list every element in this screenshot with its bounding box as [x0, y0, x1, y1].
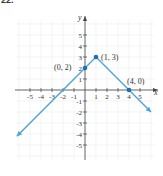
x-tick-label: 4 [127, 93, 131, 101]
x-tick-label: 1 [94, 93, 98, 101]
y-tick-label: -1 [76, 98, 82, 106]
y-tick-label: 5 [79, 32, 83, 40]
x-tick-label: 2 [105, 93, 109, 101]
data-point-marker [94, 55, 99, 60]
graph-figure: 22. -5-4-3-2-112345-5-4-3-2-112345 x y (… [0, 0, 163, 176]
y-axis-label: y [77, 13, 82, 22]
y-tick-label: -5 [76, 142, 82, 150]
coordinate-plane: -5-4-3-2-112345-5-4-3-2-112345 x y (0, 2… [0, 0, 163, 176]
axes [15, 16, 158, 160]
y-tick-label: -3 [76, 120, 82, 128]
y-axis-arrow-icon [83, 16, 87, 21]
data-point-marker [127, 88, 132, 93]
x-tick-label: -5 [27, 93, 33, 101]
y-tick-label: -2 [76, 109, 82, 117]
problem-number: 22. [1, 0, 14, 5]
point-label-0-2: (0, 2) [54, 63, 72, 72]
point-label-1-3: (1, 3) [101, 53, 119, 62]
point-label-4-0: (4, 0) [127, 77, 145, 86]
x-tick-label: -2 [60, 93, 66, 101]
x-tick-label: -4 [38, 93, 44, 101]
y-tick-label: 1 [79, 76, 83, 84]
y-tick-label: -4 [76, 131, 82, 139]
y-tick-label: 4 [79, 43, 83, 51]
data-point-marker [83, 66, 88, 71]
y-tick-label: 3 [79, 54, 83, 62]
x-tick-label: 3 [116, 93, 120, 101]
x-axis-label: x [153, 88, 158, 97]
